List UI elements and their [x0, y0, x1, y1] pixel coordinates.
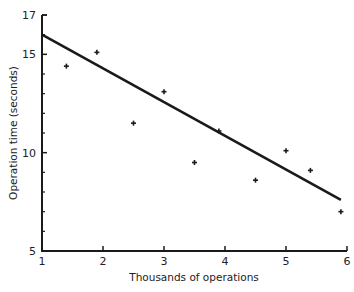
data-point-marker: [162, 89, 167, 94]
y-tick-label: 15: [22, 48, 36, 61]
x-tick-label: 5: [283, 255, 290, 268]
data-point-marker: [64, 64, 69, 69]
axes: [41, 15, 347, 252]
y-tick-label: 10: [22, 147, 36, 160]
x-tick-label: 2: [100, 255, 107, 268]
fit-line-segment: [42, 35, 341, 200]
data-point-marker: [338, 209, 343, 214]
y-tick-label: 17: [22, 9, 36, 22]
data-point-marker: [94, 50, 99, 55]
tick-labels: 1234565101517: [22, 9, 351, 268]
data-point-marker: [253, 178, 258, 183]
scatter-chart: 1234565101517 Thousands of operations Op…: [0, 0, 354, 292]
x-tick-label: 4: [222, 255, 229, 268]
data-point-marker: [284, 148, 289, 153]
ticks: [42, 15, 347, 251]
data-points: [64, 50, 344, 214]
y-tick-label: 5: [29, 245, 36, 258]
x-tick-label: 3: [161, 255, 168, 268]
y-axis-title: Operation time (seconds): [7, 66, 19, 200]
data-point-marker: [192, 160, 197, 165]
data-point-marker: [131, 121, 136, 126]
regression-line: [42, 35, 341, 200]
data-point-marker: [308, 168, 313, 173]
x-tick-label: 6: [344, 255, 351, 268]
x-axis-title: Thousands of operations: [128, 271, 259, 283]
x-tick-label: 1: [39, 255, 46, 268]
